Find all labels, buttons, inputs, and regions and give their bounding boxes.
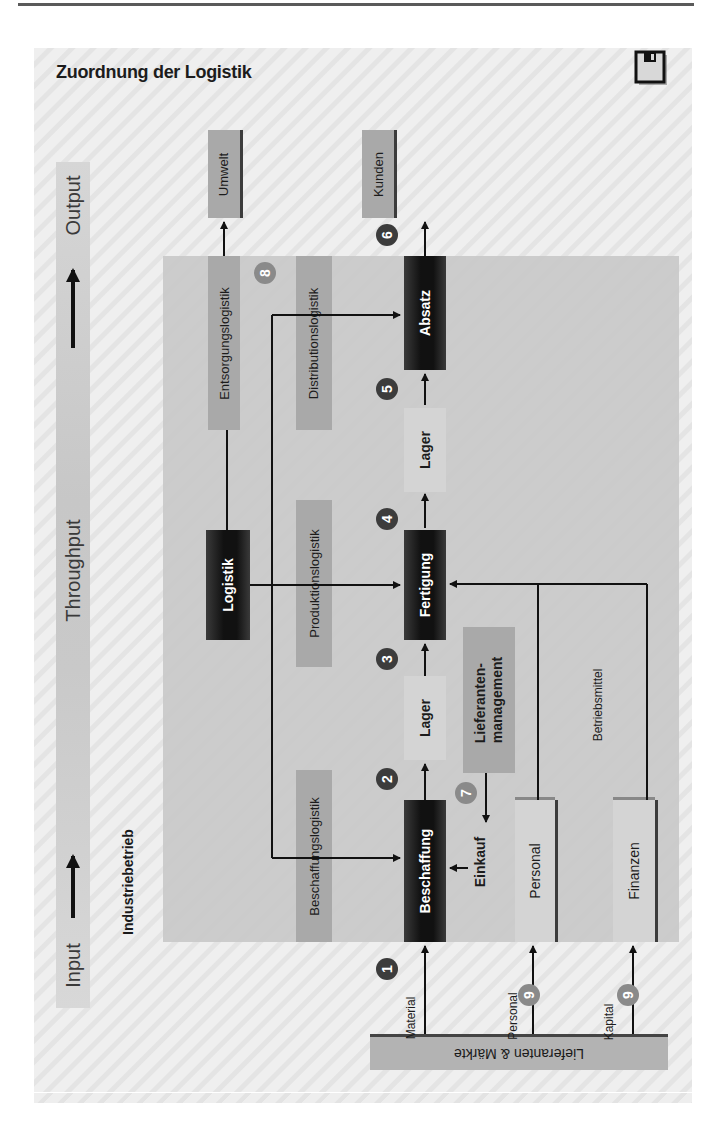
personnel-box: Personal: [515, 800, 555, 942]
flow-output-label: Output: [56, 160, 90, 250]
supplier-management-line2: management: [489, 657, 505, 743]
material-flow-label: Material: [402, 988, 420, 1048]
disposal-logistics-box: Entsorgungslogistik: [208, 256, 240, 430]
step-badge-7: 7: [455, 782, 477, 804]
step-badge-2: 2: [376, 768, 398, 790]
save-icon[interactable]: [634, 50, 670, 88]
supplier-management-line1: Lieferanten-: [472, 663, 488, 743]
procurement-logistics-box: Beschaffungslogistik: [296, 770, 332, 942]
procurement-box: Beschaffung: [404, 800, 446, 942]
step-badge-3: 3: [376, 648, 398, 670]
step-badge-9-capital: 9: [617, 984, 639, 1006]
purchasing-label: Einkauf: [466, 820, 494, 904]
finance-box: Finanzen: [613, 800, 655, 942]
flow-input-label: Input: [56, 930, 90, 1000]
step-badge-5: 5: [376, 378, 398, 400]
diagram-title: Zuordnung der Logistik: [56, 62, 251, 83]
industrial-company-label: Industriebetrieb: [116, 820, 140, 944]
storage-upper-box: Lager: [404, 408, 446, 492]
flow-throughput-label: Throughput: [56, 500, 90, 640]
manufacturing-box: Fertigung: [404, 530, 446, 640]
logistics-center-box: Logistik: [206, 530, 250, 640]
distribution-logistics-box: Distributionslogistik: [296, 256, 332, 430]
production-logistics-box: Produktionslogistik: [296, 500, 332, 667]
step-badge-6: 6: [376, 224, 398, 246]
step-badge-1: 1: [376, 958, 398, 980]
card-bottom-strip: [34, 1093, 692, 1103]
step-badge-4: 4: [376, 508, 398, 530]
environment-box: Umwelt: [208, 130, 240, 218]
capital-flow-label: Kapital: [600, 995, 618, 1049]
step-badge-9-personnel: 9: [518, 984, 540, 1006]
sales-box: Absatz: [404, 256, 446, 370]
page-top-rule: [18, 3, 694, 6]
step-badge-8: 8: [254, 262, 276, 284]
storage-lower-box: Lager: [404, 676, 446, 760]
equipment-label: Betriebsmittel: [588, 650, 608, 760]
customers-box: Kunden: [362, 130, 394, 218]
supplier-management-box: Lieferanten-management: [463, 627, 515, 773]
